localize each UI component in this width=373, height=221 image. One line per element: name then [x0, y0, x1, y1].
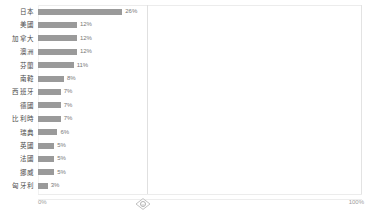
bar[interactable] — [38, 89, 61, 95]
bar[interactable] — [38, 35, 77, 41]
bar-value-label: 6% — [57, 126, 69, 139]
diamond-handle-icon — [134, 197, 152, 211]
bar[interactable] — [38, 76, 64, 82]
bar-category-label: 日本 — [0, 5, 34, 18]
bar-track: 5% — [38, 139, 362, 152]
bar-category-label: 澳洲 — [0, 45, 34, 58]
bar-track: 12% — [38, 18, 362, 31]
bar[interactable] — [38, 9, 122, 15]
bar-value-label: 12% — [77, 45, 92, 58]
table-row[interactable]: 美國12% — [0, 18, 373, 31]
bar-value-label: 12% — [77, 18, 92, 31]
bar-track: 5% — [38, 152, 362, 165]
table-row[interactable]: 芬蘭11% — [0, 59, 373, 72]
bar-chart-visualization: 日本26%美國12%加拿大12%澳洲12%芬蘭11%南韓8%西班牙7%德國7%比… — [0, 0, 373, 221]
table-row[interactable]: 加拿大12% — [0, 32, 373, 45]
bar-category-label: 德國 — [0, 99, 34, 112]
bar-value-label: 5% — [54, 139, 66, 152]
bar-value-label: 7% — [61, 85, 73, 98]
table-row[interactable]: 德國7% — [0, 99, 373, 112]
bar-category-label: 瑞典 — [0, 126, 34, 139]
bar[interactable] — [38, 143, 54, 149]
bar-category-label: 西班牙 — [0, 85, 34, 98]
table-row[interactable]: 日本26% — [0, 5, 373, 18]
bar-value-label: 7% — [61, 112, 73, 125]
bar-value-label: 3% — [48, 179, 60, 192]
bar[interactable] — [38, 169, 54, 175]
bar-track: 26% — [38, 5, 362, 18]
bar-value-label: 5% — [54, 166, 66, 179]
column-resize-handle-icon[interactable] — [134, 197, 152, 211]
bar-category-label: 匈牙利 — [0, 179, 34, 192]
bar[interactable] — [38, 49, 77, 55]
table-row[interactable]: 西班牙7% — [0, 85, 373, 98]
table-row[interactable]: 英國5% — [0, 139, 373, 152]
bar[interactable] — [38, 102, 61, 108]
table-row[interactable]: 比利時7% — [0, 112, 373, 125]
bar[interactable] — [38, 62, 74, 68]
bar-track: 7% — [38, 85, 362, 98]
bar-track: 7% — [38, 99, 362, 112]
bar-category-label: 英國 — [0, 139, 34, 152]
bar-value-label: 8% — [64, 72, 76, 85]
bar-track: 7% — [38, 112, 362, 125]
bar[interactable] — [38, 156, 54, 162]
bar-category-label: 南韓 — [0, 72, 34, 85]
table-row[interactable]: 挪威5% — [0, 166, 373, 179]
x-axis: 0% 100% — [0, 196, 373, 210]
bar-category-label: 挪威 — [0, 166, 34, 179]
bar-value-label: 26% — [122, 5, 137, 18]
bar-category-label: 美國 — [0, 18, 34, 31]
table-row[interactable]: 法國5% — [0, 152, 373, 165]
bar-rows: 日本26%美國12%加拿大12%澳洲12%芬蘭11%南韓8%西班牙7%德國7%比… — [0, 5, 373, 195]
axis-tick-max: 100% — [349, 196, 364, 208]
bar[interactable] — [38, 22, 77, 28]
table-row[interactable]: 澳洲12% — [0, 45, 373, 58]
bar[interactable] — [38, 116, 61, 122]
bar-track: 6% — [38, 126, 362, 139]
bar-category-label: 加拿大 — [0, 32, 34, 45]
bar-track: 12% — [38, 32, 362, 45]
bar-value-label: 12% — [77, 32, 92, 45]
bar[interactable] — [38, 129, 57, 135]
bar-category-label: 法國 — [0, 152, 34, 165]
bar-value-label: 7% — [61, 99, 73, 112]
table-row[interactable]: 南韓8% — [0, 72, 373, 85]
bar[interactable] — [38, 183, 48, 189]
table-row[interactable]: 瑞典6% — [0, 126, 373, 139]
bar-track: 5% — [38, 166, 362, 179]
bar-value-label: 11% — [74, 59, 89, 72]
bar-track: 8% — [38, 72, 362, 85]
bar-value-label: 5% — [54, 152, 66, 165]
bar-category-label: 芬蘭 — [0, 59, 34, 72]
bar-track: 3% — [38, 179, 362, 192]
bar-category-label: 比利時 — [0, 112, 34, 125]
bar-track: 12% — [38, 45, 362, 58]
axis-tick-min: 0% — [38, 196, 47, 208]
bar-track: 11% — [38, 59, 362, 72]
table-row[interactable]: 匈牙利3% — [0, 179, 373, 192]
